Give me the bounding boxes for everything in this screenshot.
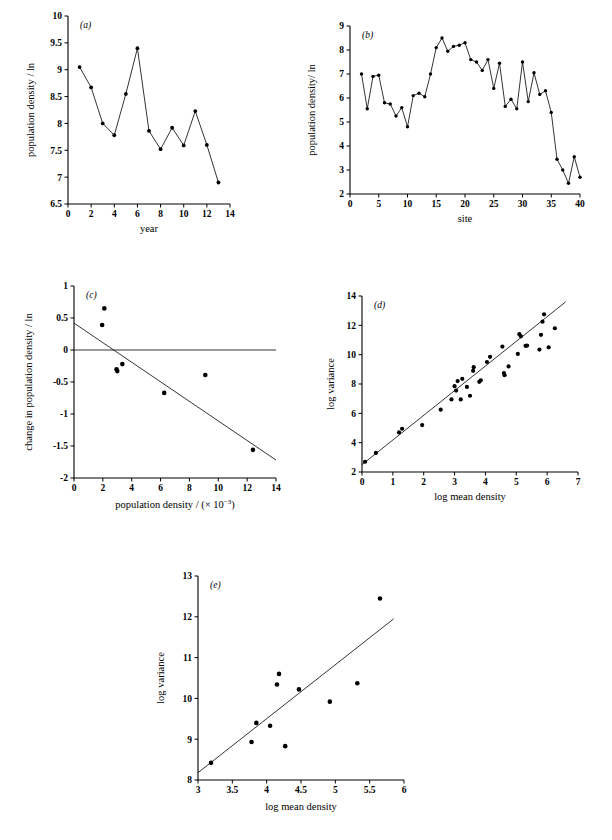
y-tick-label-e: 11 xyxy=(183,653,192,663)
x-tick-label-c: 12 xyxy=(242,483,252,493)
panel-c-change-vs-density: 02468101214-2-1.5-1-0.500.51(c)change in… xyxy=(22,276,290,526)
data-point-a xyxy=(101,122,105,126)
x-tick-label-a: 0 xyxy=(66,209,71,219)
x-tick-label-a: 10 xyxy=(179,209,189,219)
panel-e-log-variance-vs-log-mean-density: 33.544.555.568910111213(e)log variancelo… xyxy=(152,566,420,828)
regression-line-d xyxy=(362,302,566,465)
data-point-d xyxy=(502,373,506,377)
y-axis-title-c: change in population density / ln xyxy=(23,313,34,451)
panel-tag-e: (e) xyxy=(210,580,221,591)
data-point-d xyxy=(542,312,546,316)
data-point-a xyxy=(124,92,128,96)
data-point-c xyxy=(203,373,208,378)
y-axis-title-d: log variance xyxy=(325,358,336,410)
data-point-a xyxy=(217,181,221,185)
x-tick-label-d: 6 xyxy=(545,477,550,487)
y-tick-label-a: 8 xyxy=(57,119,62,129)
x-axis-title-a: year xyxy=(140,223,159,234)
x-tick-label-a: 14 xyxy=(225,209,235,219)
panel-d-log-variance-vs-log-mean-density: 012345672468101214(d)log variancelog mea… xyxy=(322,286,592,516)
data-point-b xyxy=(383,101,386,104)
axis-lines-d xyxy=(362,296,578,472)
data-point-d xyxy=(471,369,475,373)
data-point-a xyxy=(159,147,163,151)
x-tick-label-b: 25 xyxy=(489,199,499,209)
data-point-d xyxy=(500,345,504,349)
y-tick-label-c: 0 xyxy=(63,345,68,355)
data-point-c xyxy=(102,306,107,311)
data-point-b xyxy=(400,106,403,109)
x-tick-label-d: 0 xyxy=(360,477,365,487)
data-point-e xyxy=(355,681,360,686)
data-point-b xyxy=(463,41,466,44)
data-point-b xyxy=(555,158,558,161)
x-tick-label-c: 6 xyxy=(158,483,163,493)
x-tick-label-e: 4 xyxy=(264,785,269,795)
x-axis-title-c: population density / (× 10−3) xyxy=(115,498,235,511)
data-point-b xyxy=(371,75,374,78)
x-axis-title-b: site xyxy=(458,213,473,224)
data-point-d xyxy=(506,364,510,368)
data-point-d xyxy=(449,397,453,401)
data-point-b xyxy=(412,94,415,97)
data-point-b xyxy=(394,114,397,117)
x-tick-label-b: 10 xyxy=(403,199,413,209)
y-tick-label-a: 8.5 xyxy=(50,92,62,102)
x-tick-label-c: 0 xyxy=(72,483,77,493)
data-point-e xyxy=(328,699,333,704)
x-tick-label-a: 8 xyxy=(158,209,163,219)
plot-area-c: 02468101214-2-1.5-1-0.500.51(c)change in… xyxy=(22,276,290,526)
data-point-b xyxy=(389,102,392,105)
x-tick-label-c: 2 xyxy=(100,483,105,493)
axis-lines-a xyxy=(68,16,230,204)
data-point-d xyxy=(400,427,404,431)
y-axis-title-b: population density/ ln xyxy=(306,63,317,155)
data-point-b xyxy=(475,60,478,63)
y-tick-label-b: 4 xyxy=(339,141,344,151)
data-point-b xyxy=(440,36,443,39)
x-tick-label-a: 6 xyxy=(135,209,140,219)
x-tick-label-d: 1 xyxy=(390,477,395,487)
data-point-d xyxy=(456,379,460,383)
y-tick-label-d: 6 xyxy=(351,409,356,419)
data-point-e xyxy=(268,723,273,728)
data-point-d xyxy=(468,394,472,398)
x-tick-label-c: 14 xyxy=(271,483,281,493)
data-point-a xyxy=(193,109,197,113)
x-tick-label-e: 3.5 xyxy=(226,785,238,795)
x-tick-label-a: 4 xyxy=(112,209,117,219)
data-point-d xyxy=(537,347,541,351)
plot-area-d: 012345672468101214(d)log variancelog mea… xyxy=(322,286,592,516)
axis-lines-e xyxy=(198,576,404,780)
data-point-e xyxy=(249,740,254,745)
y-tick-label-b: 2 xyxy=(339,189,344,199)
plot-area-a: 024681012146.577.588.599.510(a)populatio… xyxy=(22,6,242,246)
x-tick-label-b: 15 xyxy=(432,199,442,209)
x-tick-label-b: 5 xyxy=(376,199,381,209)
axis-lines-c xyxy=(74,286,276,478)
data-point-b xyxy=(452,45,455,48)
data-point-b xyxy=(377,74,380,77)
panel-a-population-density-vs-year: 024681012146.577.588.599.510(a)populatio… xyxy=(22,6,242,246)
data-point-d xyxy=(485,360,489,364)
data-point-e xyxy=(277,672,282,677)
panel-tag-a: (a) xyxy=(80,20,91,31)
data-point-d xyxy=(539,333,543,337)
y-tick-label-a: 6.5 xyxy=(50,199,62,209)
data-point-d xyxy=(459,397,463,401)
data-point-d xyxy=(397,430,401,434)
data-point-b xyxy=(578,176,581,179)
data-point-b xyxy=(486,58,489,61)
x-axis-title-main-c: population density / (× 10 xyxy=(115,499,224,511)
panel-tag-b: (b) xyxy=(362,30,373,41)
data-point-d xyxy=(519,334,523,338)
y-tick-label-e: 9 xyxy=(187,735,192,745)
data-point-b xyxy=(532,71,535,74)
data-point-d xyxy=(363,460,367,464)
data-point-a xyxy=(78,65,82,69)
x-tick-label-b: 0 xyxy=(348,199,353,209)
x-tick-label-e: 3 xyxy=(196,785,201,795)
y-tick-label-a: 7.5 xyxy=(50,146,62,156)
data-point-b xyxy=(435,46,438,49)
data-point-b xyxy=(406,125,409,128)
